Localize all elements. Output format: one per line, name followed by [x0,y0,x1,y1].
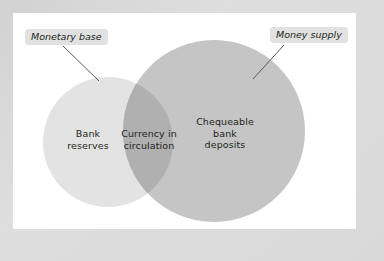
leader-line-monetary-base [63,46,99,81]
callout-money-supply: Money supply [270,27,348,43]
region-label-chequeable-bank-deposits: Chequeable bank deposits [186,116,264,151]
region-label-currency-in-circulation: Currency in circulation [118,128,180,151]
venn-diagram-figure: Bank reserves Currency in circulation Ch… [0,0,384,261]
callout-monetary-base: Monetary base [25,29,108,45]
region-label-bank-reserves: Bank reserves [58,128,118,151]
